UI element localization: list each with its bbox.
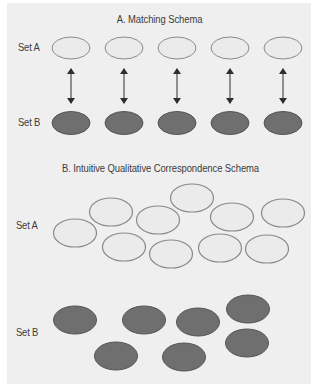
set-a-element-ellipse [103,233,146,261]
diagram-canvas [0,0,320,392]
section-b-title: B. Intuitive Qualitative Correspondence … [0,162,320,174]
set-a-element-ellipse [171,184,214,212]
set-b-element-ellipse [211,112,249,135]
set-b-element-ellipse [264,112,302,135]
set-a-element-ellipse [264,37,302,59]
set-b-element-ellipse [226,329,269,357]
section-a-set-a-label: Set A [18,41,40,53]
set-b-element-ellipse [105,112,143,135]
set-b-element-ellipse [95,342,138,370]
set-b-element-ellipse [158,112,196,135]
intuitive-set-b-ellipses [54,295,270,371]
matching-set-a-ellipses [52,37,302,59]
set-b-element-ellipse [123,306,166,334]
set-a-element-ellipse [211,203,254,231]
section-a-set-b-label: Set B [18,116,40,128]
set-b-element-ellipse [227,295,270,323]
section-b-set-a-label: Set A [16,219,38,231]
set-b-element-ellipse [163,343,206,371]
set-b-element-ellipse [54,306,97,334]
intuitive-set-a-ellipses [54,184,305,268]
set-a-element-ellipse [211,37,249,59]
set-a-element-ellipse [158,37,196,59]
section-a-title: A. Matching Schema [0,13,320,25]
section-b-set-b-label: Set B [16,326,38,338]
matching-correspondence-arrows [71,69,283,103]
set-a-element-ellipse [199,234,242,262]
set-a-element-ellipse [52,37,90,59]
set-a-element-ellipse [137,206,180,234]
set-a-element-ellipse [90,198,133,226]
matching-set-b-ellipses [52,112,302,135]
set-a-element-ellipse [105,37,143,59]
set-a-element-ellipse [246,235,289,263]
set-b-element-ellipse [52,112,90,135]
set-a-element-ellipse [262,199,305,227]
set-a-element-ellipse [54,219,97,247]
set-b-element-ellipse [177,308,220,336]
set-a-element-ellipse [150,240,193,268]
